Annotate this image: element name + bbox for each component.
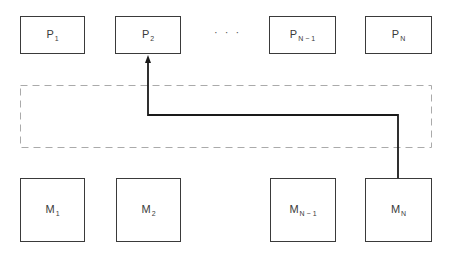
connection-path-mn-to-p2 <box>148 62 398 178</box>
arrowhead-icon <box>145 55 151 63</box>
interconnect-diagram <box>0 0 451 256</box>
interconnect-network-dashed-box <box>21 86 432 148</box>
